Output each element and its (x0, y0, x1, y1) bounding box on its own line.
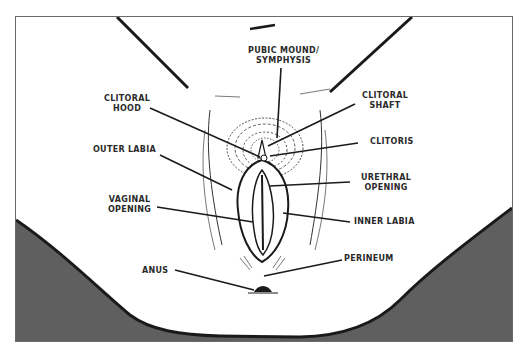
label-line: PUBIC MOUND/ (248, 46, 319, 56)
label-perineum: PERINEUM (344, 254, 393, 264)
label-line: HOOD (104, 104, 150, 114)
label-line: SHAFT (362, 101, 408, 111)
label-clitoral-hood: CLITORAL HOOD (104, 94, 150, 114)
left-thigh-line (117, 17, 188, 88)
label-line: URETHRAL (361, 173, 411, 183)
label-line: CLITORAL (362, 91, 408, 101)
label-line: INNER LABIA (354, 217, 415, 227)
label-inner-labia: INNER LABIA (354, 217, 415, 227)
label-urethral-opening: URETHRAL OPENING (361, 173, 411, 193)
label-line: SYMPHYSIS (248, 56, 319, 66)
label-outer-labia: OUTER LABIA (93, 145, 156, 155)
right-thigh-line (330, 17, 412, 92)
label-line: ANUS (142, 266, 168, 276)
label-anus: ANUS (142, 266, 168, 276)
label-line: OPENING (361, 183, 411, 193)
label-line: OUTER LABIA (93, 145, 156, 155)
label-line: CLITORIS (370, 137, 414, 147)
label-line: PERINEUM (344, 254, 393, 264)
label-line: CLITORAL (104, 94, 150, 104)
label-pubic-mound: PUBIC MOUND/ SYMPHYSIS (248, 46, 319, 66)
anus-shape (254, 286, 272, 292)
label-line: OPENING (108, 205, 151, 215)
label-clitoris: CLITORIS (370, 137, 414, 147)
label-clitoral-shaft: CLITORAL SHAFT (362, 91, 408, 111)
label-vaginal-opening: VAGINAL OPENING (108, 195, 151, 215)
label-line: VAGINAL (108, 195, 151, 205)
